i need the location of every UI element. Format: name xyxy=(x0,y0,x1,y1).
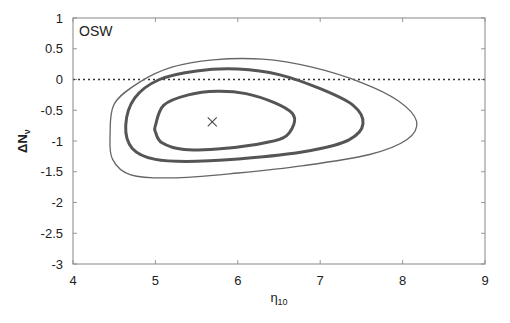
y-tick-label: 0 xyxy=(56,72,63,87)
y-tick-label: 1 xyxy=(56,11,63,26)
contour-lines xyxy=(110,59,417,178)
x-tick-label: 6 xyxy=(234,273,241,288)
y-tick-label: -2.5 xyxy=(41,226,63,241)
y-tick-label: 0.5 xyxy=(45,41,63,56)
y-axis-ticks: 10.50-0.5-1-1.5-2-2.5-3 xyxy=(41,11,485,272)
contour-chart: 10.50-0.5-1-1.5-2-2.5-3 456789 OSW η10 Δ… xyxy=(0,0,510,323)
y-tick-label: -3 xyxy=(51,257,63,272)
x-tick-label: 5 xyxy=(152,273,159,288)
y-tick-label: -0.5 xyxy=(41,103,63,118)
x-tick-label: 4 xyxy=(69,273,76,288)
y-axis-title: ΔNν xyxy=(15,129,32,153)
x-tick-label: 8 xyxy=(399,273,406,288)
y-tick-label: -2 xyxy=(51,195,63,210)
inner-contour xyxy=(154,91,294,150)
panel-label: OSW xyxy=(79,23,113,39)
x-axis-title: η10 xyxy=(270,290,287,307)
y-tick-label: -1.5 xyxy=(41,164,63,179)
best-fit-marker xyxy=(208,117,217,126)
y-tick-label: -1 xyxy=(51,134,63,149)
x-tick-label: 9 xyxy=(481,273,488,288)
x-tick-label: 7 xyxy=(317,273,324,288)
x-axis-ticks: 456789 xyxy=(69,18,488,288)
